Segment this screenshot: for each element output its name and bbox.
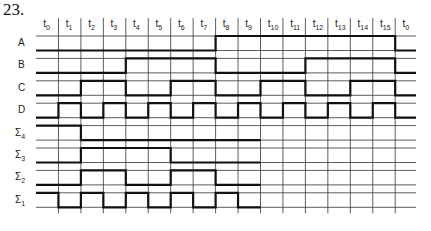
- time-label: t10: [268, 18, 279, 31]
- time-label: t1: [66, 18, 73, 31]
- time-label: t6: [178, 18, 185, 31]
- time-label: t8: [223, 18, 230, 31]
- signal-label: D: [18, 104, 25, 115]
- time-label: t7: [200, 18, 207, 31]
- waveform-d: [36, 103, 416, 118]
- signal-label: A: [18, 37, 25, 48]
- time-label: t12: [313, 18, 324, 31]
- signal-label: B: [18, 59, 25, 70]
- time-label: t0: [43, 18, 50, 31]
- time-label: t4: [133, 18, 140, 31]
- signal-labels: ABCDΣ4Σ3Σ2Σ1: [15, 37, 25, 207]
- time-label: t11: [290, 18, 300, 31]
- time-label: t0: [402, 18, 409, 31]
- time-label: t14: [358, 18, 369, 31]
- signal-label: C: [18, 82, 25, 93]
- timing-diagram: t0t1t2t3t4t5t6t7t8t9t10t11t12t13t14t15t0…: [0, 0, 431, 231]
- time-label: t3: [111, 18, 118, 31]
- time-label: t13: [335, 18, 346, 31]
- time-labels: t0t1t2t3t4t5t6t7t8t9t10t11t12t13t14t15t0: [43, 18, 409, 31]
- signal-label: Σ3: [15, 149, 25, 162]
- time-label: t2: [88, 18, 95, 31]
- signal-waveforms: [36, 36, 416, 207]
- time-label: t5: [155, 18, 162, 31]
- waveform-a: [36, 36, 416, 51]
- time-label: t9: [245, 18, 252, 31]
- signal-label: Σ1: [15, 194, 25, 207]
- signal-label: Σ2: [15, 171, 25, 184]
- signal-label: Σ4: [15, 127, 25, 140]
- waveform-c: [36, 81, 416, 96]
- time-label: t15: [380, 18, 391, 31]
- waveform-b: [36, 58, 416, 73]
- waveform-sigma1: [36, 193, 261, 208]
